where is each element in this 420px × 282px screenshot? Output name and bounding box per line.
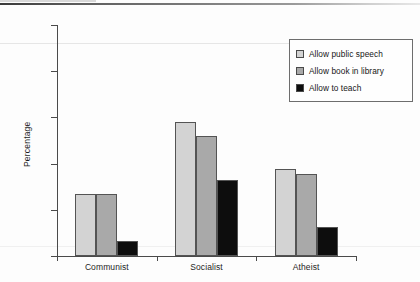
bar bbox=[96, 194, 117, 256]
chart-canvas: 020406080100 CommunistSocialistAtheist P… bbox=[0, 0, 420, 282]
bar bbox=[117, 241, 138, 256]
legend-item: Allow book in library bbox=[296, 62, 406, 79]
legend-label: Allow to teach bbox=[309, 83, 361, 93]
bar bbox=[217, 180, 238, 256]
x-axis-tick bbox=[57, 256, 58, 261]
legend: Allow public speechAllow book in library… bbox=[289, 39, 413, 102]
y-axis-tick bbox=[51, 210, 57, 211]
legend-swatch bbox=[296, 67, 304, 75]
bar bbox=[75, 194, 96, 256]
legend-item: Allow to teach bbox=[296, 79, 406, 96]
bar bbox=[317, 227, 338, 256]
bar bbox=[296, 174, 317, 256]
x-axis-tick-label: Socialist bbox=[190, 262, 223, 272]
y-axis-title: Percentage bbox=[22, 121, 32, 166]
y-axis-line bbox=[57, 25, 58, 256]
legend-swatch bbox=[296, 50, 304, 58]
y-axis-tick bbox=[51, 117, 57, 118]
x-axis-line bbox=[57, 256, 356, 257]
bar bbox=[196, 136, 217, 256]
y-axis-tick bbox=[51, 25, 57, 26]
x-axis-tick bbox=[256, 256, 257, 261]
x-axis-tick-label: Atheist bbox=[293, 262, 320, 272]
y-axis-tick bbox=[51, 71, 57, 72]
legend-item: Allow public speech bbox=[296, 45, 406, 62]
x-axis-tick bbox=[356, 256, 357, 261]
legend-label: Allow book in library bbox=[309, 66, 384, 76]
x-axis-tick-label: Communist bbox=[85, 262, 129, 272]
bar bbox=[275, 169, 296, 256]
x-axis-tick bbox=[157, 256, 158, 261]
y-axis-tick bbox=[51, 164, 57, 165]
legend-swatch bbox=[296, 84, 304, 92]
bar bbox=[175, 122, 196, 256]
legend-label: Allow public speech bbox=[309, 49, 383, 59]
